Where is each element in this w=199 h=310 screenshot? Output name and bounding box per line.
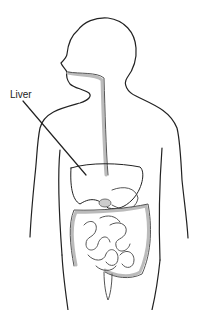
gallbladder	[99, 199, 111, 207]
rectum	[104, 272, 112, 300]
small-intestine	[84, 216, 134, 271]
liver-label: Liver	[10, 89, 32, 100]
body-outline	[61, 18, 188, 238]
large-intestine-edge	[70, 204, 150, 278]
left-arm-line	[59, 150, 62, 255]
right-arm-line	[159, 148, 162, 260]
right-torso-line	[152, 260, 160, 310]
left-torso-line	[62, 255, 68, 310]
digestive-system-diagram	[0, 0, 199, 310]
